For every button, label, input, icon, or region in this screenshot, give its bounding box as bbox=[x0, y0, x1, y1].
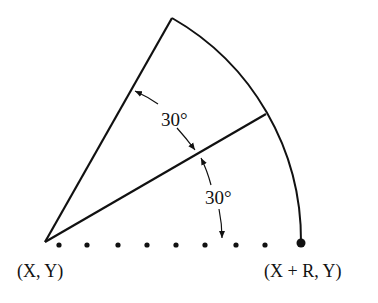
upper-angle-arrow-bottom bbox=[177, 128, 195, 150]
upper-angle-arrow-top bbox=[135, 91, 158, 104]
baseline-dots bbox=[56, 242, 267, 247]
radius-30deg bbox=[45, 114, 266, 242]
endpoint-dot bbox=[297, 239, 306, 248]
angle-upper-label: 30° bbox=[161, 109, 188, 130]
lower-angle-arrow-bottom bbox=[219, 209, 222, 238]
center-point-label: (X, Y) bbox=[17, 261, 63, 282]
angle-lower-label: 30° bbox=[205, 187, 232, 208]
radius-60deg bbox=[45, 18, 172, 242]
lower-angle-arrow-top bbox=[201, 158, 211, 185]
end-point-label: (X + R, Y) bbox=[264, 261, 341, 282]
sector-diagram: 30° 30° (X, Y) (X + R, Y) bbox=[0, 0, 378, 303]
